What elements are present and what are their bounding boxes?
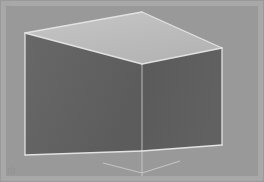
render-canvas: ▪▪▪ ılı: [0, 0, 264, 182]
box-render-svg: [0, 0, 264, 182]
right-face: [142, 48, 222, 151]
